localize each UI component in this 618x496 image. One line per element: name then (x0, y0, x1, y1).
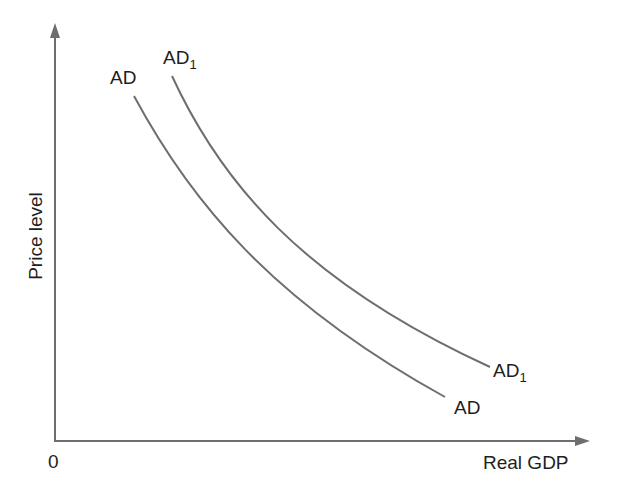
ad1-label-top-text: AD (163, 47, 189, 68)
ad-label-top: AD (110, 68, 136, 87)
ad-label-bottom-text: AD (454, 397, 480, 418)
ad-label-bottom: AD (454, 398, 480, 417)
plot-area (0, 0, 618, 496)
y-axis-label: Price level (25, 192, 47, 280)
origin-label: 0 (48, 452, 59, 471)
x-axis-label: Real GDP (483, 453, 569, 472)
ad-curve (134, 96, 445, 397)
ad1-label-bottom-text: AD (493, 360, 519, 381)
ad-shift-chart: AD AD1 AD1 AD 0 Real GDP Price level (0, 0, 618, 496)
ad1-label-top-subscript: 1 (189, 57, 196, 72)
ad1-label-bottom-subscript: 1 (519, 370, 526, 385)
ad1-label-bottom: AD1 (493, 361, 527, 380)
ad1-label-top: AD1 (163, 48, 197, 67)
x-axis-arrow-icon (575, 436, 590, 446)
y-axis-arrow-icon (50, 23, 60, 38)
ad-label-top-text: AD (110, 67, 136, 88)
